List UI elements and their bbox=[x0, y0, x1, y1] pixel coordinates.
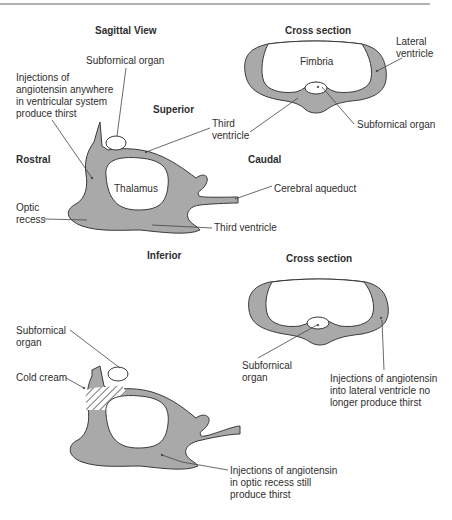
label-lateral-no-thirst: Injections of angiotensin into lateral v… bbox=[330, 373, 437, 409]
label-subfornical-organ-cross-top: Subfornical organ bbox=[357, 119, 435, 131]
subfornical-organ-bottom bbox=[108, 367, 128, 381]
label-fimbria: Fimbria bbox=[300, 56, 333, 68]
label-optic-recess: Optic recess bbox=[16, 202, 45, 226]
label-caudal: Caudal bbox=[248, 154, 281, 166]
label-third-ventricle-lower: Third ventricle bbox=[214, 222, 277, 234]
subfornical-organ-top bbox=[106, 136, 126, 150]
label-subfornical-organ-top: Subfornical organ bbox=[86, 55, 164, 67]
label-rostral: Rostral bbox=[16, 154, 50, 166]
cross-section-title-top: Cross section bbox=[285, 25, 351, 37]
subfornical-organ-cross-top bbox=[305, 82, 327, 94]
label-inferior: Inferior bbox=[147, 250, 181, 262]
sagittal-view-title: Sagittal View bbox=[95, 25, 157, 37]
cross-section-top bbox=[245, 41, 387, 113]
label-third-ventricle-upper: Third ventricle bbox=[212, 118, 249, 142]
label-subfornical-organ-bottom: Subfornical organ bbox=[16, 325, 66, 349]
label-cold-cream: Cold cream bbox=[16, 372, 67, 384]
cross-section-bottom bbox=[249, 279, 389, 345]
label-optic-still-thirst: Injections of angiotensin in optic reces… bbox=[230, 465, 337, 501]
cross-section-title-bottom: Cross section bbox=[286, 253, 352, 265]
subfornical-organ-cross-bottom bbox=[307, 317, 329, 329]
label-lateral-ventricle: Lateral ventricle bbox=[396, 36, 433, 60]
label-injections-anywhere: Injections of angiotensin anywhere in ve… bbox=[16, 72, 113, 120]
label-cerebral-aqueduct: Cerebral aqueduct bbox=[274, 183, 356, 195]
label-thalamus: Thalamus bbox=[114, 183, 158, 195]
label-superior: Superior bbox=[153, 104, 194, 116]
label-subfornical-organ-cross-bottom: Subfornical organ bbox=[242, 360, 292, 384]
sagittal-ventricle-bottom bbox=[70, 366, 240, 469]
